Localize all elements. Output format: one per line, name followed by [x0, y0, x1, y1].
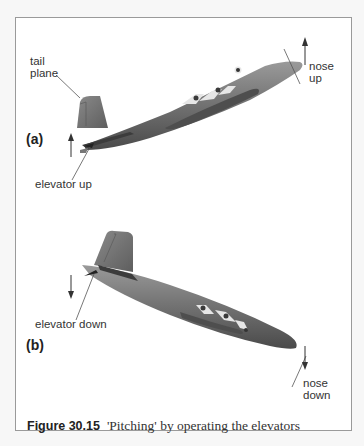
figure-title: 'Pitching' by operating the elevators	[107, 418, 300, 433]
nose-down-label-line2: down	[303, 389, 331, 401]
nose-up-label-line1: nose	[309, 60, 334, 72]
arrow-up-icon	[68, 133, 74, 141]
elevator-up-label: elevator up	[35, 178, 92, 190]
arrow-down-icon	[302, 362, 308, 370]
tail-plane-label-line2: plane	[30, 67, 58, 79]
arrow-up-icon	[302, 37, 308, 46]
figure-number: Figure 30.15	[27, 419, 100, 433]
nose-up-label-line2: up	[309, 72, 322, 84]
airplane-b	[82, 231, 297, 349]
panel-a-label: (a)	[26, 131, 43, 147]
airplane-a	[77, 62, 303, 154]
arrow-down-icon	[68, 291, 74, 299]
elevator-down-label: elevator down	[35, 318, 107, 330]
figure-caption: Figure 30.15 'Pitching' by operating the…	[27, 418, 300, 434]
nose-down-label-line1: nose	[303, 377, 328, 389]
panel-b-label: (b)	[26, 337, 44, 353]
tail-plane-label-line1: tail	[30, 55, 45, 67]
